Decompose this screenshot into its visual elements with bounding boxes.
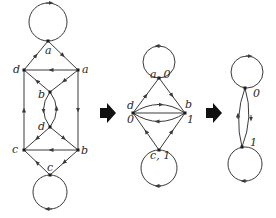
node	[244, 87, 247, 90]
right-arrow-icon	[206, 103, 222, 123]
graph-reduction-diagram: a d a b d c b c	[0, 0, 276, 218]
self-loop-top	[29, 3, 67, 41]
graph-reduced-2: 0 1	[228, 56, 263, 181]
node-label: b	[38, 88, 45, 101]
node-label: d	[127, 99, 134, 112]
node-label: 0	[127, 113, 134, 126]
node	[77, 69, 80, 72]
graph-reduced-1: a, 0 d 0 b 1 c, 1	[127, 46, 194, 186]
node-label: d	[13, 63, 20, 76]
node	[241, 146, 244, 149]
graph-original: a d a b d c b c	[12, 3, 89, 209]
node-label: a	[45, 44, 52, 57]
right-arrow-icon	[100, 103, 116, 123]
node	[77, 149, 80, 152]
node-label: b	[185, 98, 192, 111]
node	[23, 69, 26, 72]
node-label: c	[12, 143, 18, 156]
node-label: b	[81, 144, 88, 157]
node-label: 1	[187, 113, 194, 126]
node	[47, 40, 50, 43]
node	[49, 126, 52, 129]
node-label: a, 0	[150, 68, 171, 81]
node	[23, 149, 26, 152]
node-label: 1	[250, 136, 257, 149]
self-loop-bottom	[228, 147, 262, 181]
node-label: 0	[253, 87, 260, 100]
self-loop-bottom	[33, 175, 67, 209]
node	[49, 91, 52, 94]
node-label: c, 1	[150, 149, 170, 162]
node-label: c	[47, 161, 53, 174]
self-loop-top	[231, 56, 263, 88]
node-label: a	[82, 63, 89, 76]
node-label: d	[38, 120, 45, 133]
